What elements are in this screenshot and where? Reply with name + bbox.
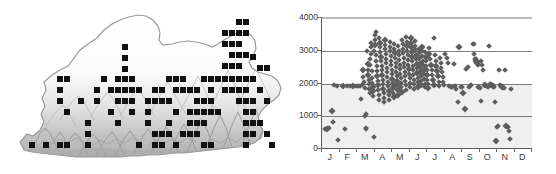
map-record-square <box>222 41 228 47</box>
map-record-square <box>129 76 135 82</box>
map-record-square <box>208 76 214 82</box>
map-record-square <box>264 98 270 104</box>
map-record-square <box>187 120 193 126</box>
map-record-square <box>94 98 100 104</box>
x-axis-tick-label: D <box>515 152 529 162</box>
gridline <box>322 18 532 19</box>
map-record-square <box>236 98 242 104</box>
distribution-map-panel <box>0 0 285 174</box>
map-record-square <box>194 120 200 126</box>
map-record-square <box>78 98 84 104</box>
map-record-square <box>208 98 214 104</box>
map-record-square <box>201 76 207 82</box>
map-record-square <box>257 120 263 126</box>
map-record-square <box>187 87 193 93</box>
map-record-square <box>64 109 70 115</box>
x-axis-tick <box>339 148 340 152</box>
map-record-square <box>173 87 179 93</box>
figure-container: 01000200030004000 JFMAMJJASOND <box>0 0 556 174</box>
map-record-square <box>229 30 235 36</box>
map-record-square <box>229 52 235 58</box>
map-record-square <box>166 120 172 126</box>
map-record-square <box>194 131 200 137</box>
map-record-square <box>29 142 35 148</box>
map-record-square <box>173 109 179 115</box>
map-record-square <box>208 142 214 148</box>
map-record-square <box>257 87 263 93</box>
map-record-square <box>108 109 114 115</box>
map-record-square <box>57 98 63 104</box>
y-axis-tick <box>317 50 321 51</box>
x-axis-tick <box>479 148 480 152</box>
map-record-square <box>187 131 193 137</box>
map-record-square <box>85 120 91 126</box>
y-axis-tick <box>317 83 321 84</box>
map-record-square <box>236 52 242 58</box>
map-record-square <box>208 87 214 93</box>
map-record-square <box>115 120 121 126</box>
map-record-square <box>201 98 207 104</box>
data-point <box>503 67 509 73</box>
map-record-square <box>159 87 165 93</box>
map-record-square <box>250 109 256 115</box>
x-axis-tick-label: O <box>480 152 494 162</box>
map-record-square <box>159 142 165 148</box>
map-record-square <box>264 131 270 137</box>
data-point <box>496 68 502 74</box>
data-point <box>451 61 457 67</box>
x-axis-tick <box>374 148 375 152</box>
x-axis-tick <box>531 148 532 152</box>
map-record-square <box>236 63 242 69</box>
x-axis-tick-label: M <box>358 152 372 162</box>
map-record-square <box>173 76 179 82</box>
map-record-square <box>57 76 63 82</box>
x-axis-tick <box>496 148 497 152</box>
map-record-square <box>129 109 135 115</box>
map-record-square <box>236 87 242 93</box>
map-record-square <box>145 120 151 126</box>
x-axis-tick-label: F <box>340 152 354 162</box>
map-record-square <box>85 142 91 148</box>
y-axis-tick <box>317 17 321 18</box>
map-record-square <box>243 30 249 36</box>
map-record-square <box>166 76 172 82</box>
map-record-square <box>250 131 256 137</box>
map-record-square <box>269 142 275 148</box>
map-record-square <box>215 109 221 115</box>
map-record-square <box>250 76 256 82</box>
map-record-square <box>64 142 70 148</box>
scatter-chart-panel: 01000200030004000 JFMAMJJASOND <box>288 0 556 174</box>
map-record-square <box>243 120 249 126</box>
map-record-square <box>122 44 128 50</box>
map-record-square <box>243 19 249 25</box>
data-point <box>481 67 487 73</box>
map-record-square <box>166 98 172 104</box>
map-record-square <box>159 131 165 137</box>
x-axis-tick-label: J <box>323 152 337 162</box>
y-axis-tick-label: 1000 <box>288 111 318 120</box>
map-record-square <box>145 98 151 104</box>
map-record-square <box>152 131 158 137</box>
map-record-square <box>122 98 128 104</box>
map-record-square <box>85 131 91 137</box>
x-axis-tick-label: N <box>498 152 512 162</box>
x-axis-tick-label: J <box>428 152 442 162</box>
map-record-square <box>229 41 235 47</box>
map-record-square <box>43 142 49 148</box>
map-record-square <box>159 98 165 104</box>
map-record-square <box>57 87 63 93</box>
y-axis-tick-label: 3000 <box>288 46 318 55</box>
map-record-square <box>180 76 186 82</box>
map-record-square <box>208 109 214 115</box>
map-record-square <box>194 109 200 115</box>
map-record-square <box>180 131 186 137</box>
map-record-square <box>64 76 70 82</box>
map-record-square <box>236 19 242 25</box>
map-record-square <box>122 66 128 72</box>
x-axis-tick <box>444 148 445 152</box>
x-axis-tick <box>461 148 462 152</box>
x-axis-tick <box>391 148 392 152</box>
y-axis-tick-label: 4000 <box>288 13 318 22</box>
map-record-square <box>94 87 100 93</box>
map-record-square <box>236 76 242 82</box>
